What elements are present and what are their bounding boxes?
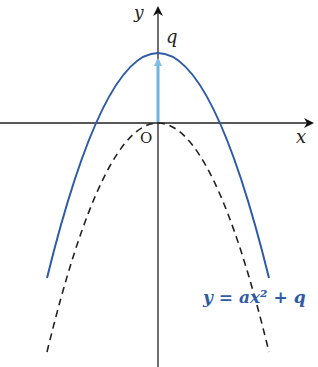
y-axis-label: y xyxy=(134,2,144,22)
parabola-diagram: y q x O y = ax² + q xyxy=(0,0,318,367)
x-axis-label: x xyxy=(296,126,306,147)
origin-label: O xyxy=(140,129,152,147)
q-label: q xyxy=(166,26,178,47)
graph-svg xyxy=(0,0,318,367)
equation-label: y = ax² + q xyxy=(203,287,306,307)
